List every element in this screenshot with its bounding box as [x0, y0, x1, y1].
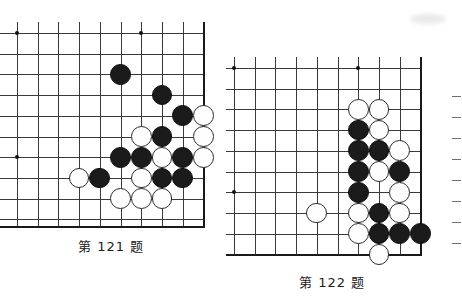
margin-tickmark: [452, 201, 461, 202]
grid-line-vertical: [317, 57, 318, 254]
white-stone: [389, 182, 410, 203]
black-stone: [348, 140, 369, 161]
grid-line-vertical: [296, 57, 297, 254]
black-stone: [348, 182, 369, 203]
margin-tickmark: [452, 138, 461, 139]
margin-tickmark: [452, 222, 461, 223]
black-stone: [410, 223, 431, 244]
white-stone: [348, 223, 369, 244]
black-stone: [348, 120, 369, 141]
black-stone: [389, 161, 410, 182]
white-stone: [348, 203, 369, 224]
white-stone: [369, 120, 390, 141]
scanned-page: 第 121 题 第 122 题: [0, 0, 462, 301]
black-stone: [369, 223, 390, 244]
star-point: [356, 66, 360, 70]
diagram-caption-121: 第 121 题: [78, 236, 144, 255]
margin-tickmark: [452, 180, 461, 181]
grid-line-vertical: [234, 57, 235, 254]
white-stone: [369, 244, 390, 265]
star-point: [232, 190, 236, 194]
margin-tickmark: [452, 243, 461, 244]
margin-tickmark: [452, 96, 461, 97]
margin-tickmark: [452, 159, 461, 160]
black-stone: [369, 203, 390, 224]
white-stone: [369, 99, 390, 120]
grid-line-vertical: [275, 57, 276, 254]
white-stone: [306, 203, 327, 224]
grid-line-vertical: [338, 57, 339, 254]
white-stone: [389, 140, 410, 161]
white-stone: [389, 203, 410, 224]
diagram-caption-122: 第 122 题: [299, 272, 365, 291]
grid-line-vertical: [255, 57, 256, 254]
black-stone: [369, 140, 390, 161]
black-stone: [389, 223, 410, 244]
black-stone: [348, 161, 369, 182]
white-stone: [348, 99, 369, 120]
board-edge-bottom: [226, 254, 422, 256]
margin-tickmark: [452, 117, 461, 118]
white-stone: [369, 161, 390, 182]
go-board-diagram-122: [0, 0, 462, 301]
star-point: [232, 66, 236, 70]
